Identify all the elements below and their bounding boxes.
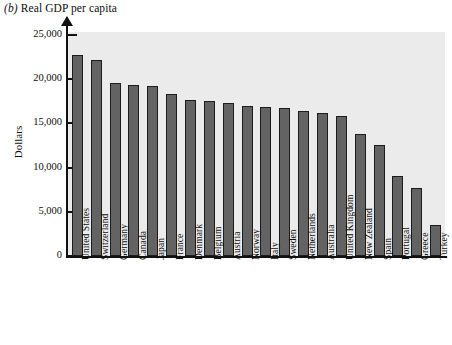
y-axis-tick-label: 20,000 [33, 73, 62, 83]
y-axis-tick-label: 15,000 [33, 117, 62, 127]
x-axis-tick-label: Portugal [401, 227, 411, 260]
bar [147, 86, 158, 256]
panel-title-text: Real GDP per capita [21, 2, 117, 14]
x-axis-tick-label: Japan [156, 238, 166, 260]
x-axis-tick-label: France [175, 234, 185, 260]
plot-area [68, 32, 445, 256]
x-axis-tick-label: United States [81, 208, 91, 260]
x-axis-tick-label: New Zealand [364, 208, 374, 260]
x-axis-tick-label: United Kingdom [345, 195, 355, 260]
y-axis-tick-label: 25,000 [33, 29, 62, 39]
y-axis-tick-label: 5,000 [38, 206, 62, 216]
y-axis-arrowhead-icon [61, 16, 73, 26]
figure-panel-b: (b) Real GDP per capita Dollars 05,00010… [0, 0, 452, 345]
x-axis-tick-label: Norway [251, 229, 261, 260]
x-axis-tick-label: Netherlands [307, 213, 317, 260]
panel-letter: (b) [4, 2, 18, 14]
y-axis-tick-label: 0 [57, 250, 62, 260]
page-title: (b) Real GDP per capita [4, 2, 117, 14]
x-axis-tick-label: Belgium [213, 227, 223, 260]
x-axis-tick-label: Turkey [439, 232, 449, 260]
y-axis-tick [68, 34, 77, 36]
x-axis-tick-label: Greece [420, 233, 430, 260]
x-axis-tick-label: Denmark [194, 224, 204, 260]
bar [166, 94, 177, 256]
y-axis-line [66, 24, 68, 258]
x-axis-tick-label: Austria [232, 231, 242, 260]
x-axis-tick-label: Germany [119, 224, 129, 260]
y-axis-title: Dollars [12, 102, 24, 182]
x-axis-tick-label: Canada [138, 231, 148, 260]
bar [260, 107, 271, 256]
x-axis-tick-label: Australia [326, 224, 336, 260]
x-axis-tick-label: Spain [383, 238, 393, 260]
x-axis-tick-label: Italy [270, 242, 280, 260]
x-axis-tick-label: Sweden [288, 229, 298, 260]
y-axis-tick-label: 10,000 [33, 162, 62, 172]
x-axis-tick-label: Switzerland [100, 214, 110, 260]
